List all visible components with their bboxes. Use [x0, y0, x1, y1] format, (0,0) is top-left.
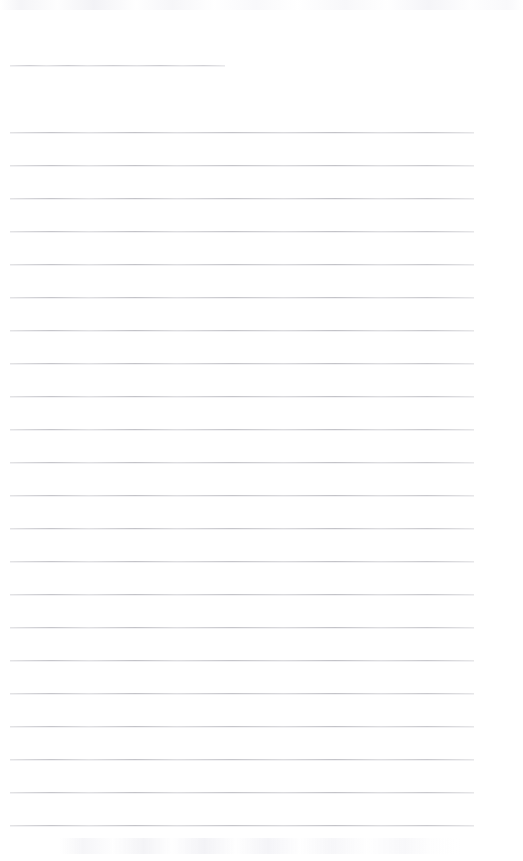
ruled-line [10, 627, 474, 628]
ruled-line [10, 198, 474, 199]
bleed-through-ghost [60, 838, 460, 854]
ruled-line [10, 429, 474, 430]
ruled-line [10, 825, 474, 826]
ruled-line [10, 396, 474, 397]
ruled-line [10, 528, 474, 529]
ruled-line [10, 297, 474, 298]
ruled-line [10, 65, 225, 66]
ruled-line [10, 165, 474, 166]
ruled-line [10, 759, 474, 760]
ruled-line [10, 561, 474, 562]
ruled-line [10, 363, 474, 364]
ruled-line [10, 495, 474, 496]
ruled-line [10, 264, 474, 265]
ruled-line [10, 594, 474, 595]
notebook-page [0, 0, 523, 861]
ruled-line [10, 132, 474, 133]
scanner-edge-artifact [0, 0, 523, 10]
ruled-line [10, 330, 474, 331]
ruled-line [10, 660, 474, 661]
ruled-line [10, 462, 474, 463]
ruled-line [10, 726, 474, 727]
ruled-line [10, 231, 474, 232]
ruled-line [10, 693, 474, 694]
ruled-line [10, 792, 474, 793]
